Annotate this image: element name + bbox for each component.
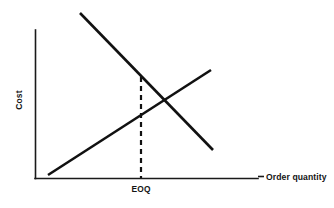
eoq-label: EOQ: [131, 184, 151, 194]
x-axis-label: Order quantity: [266, 172, 327, 182]
chart-canvas: Cost Order quantity EOQ: [0, 0, 334, 208]
y-axis-label: Cost: [14, 90, 24, 110]
eoq-cost-chart: Cost Order quantity EOQ: [0, 0, 334, 208]
